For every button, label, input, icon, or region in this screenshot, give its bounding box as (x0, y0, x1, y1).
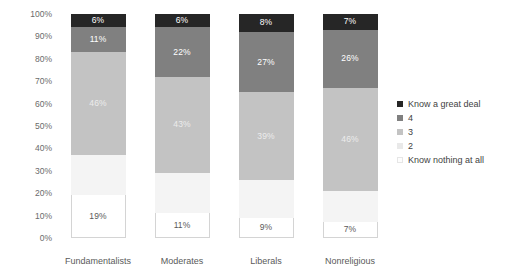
stacked-bar[interactable]: 6%11%46%19% (71, 14, 126, 238)
legend-swatch-icon (397, 129, 403, 135)
y-axis-tick-label: 30% (8, 166, 52, 175)
y-axis-tick-label: 60% (8, 99, 52, 108)
stacked-bar-chart: 0%10%20%30%40%50%60%70%80%90%100% 6%11%4… (0, 0, 506, 272)
bar-segment[interactable]: 27% (239, 32, 294, 92)
bar-segment[interactable]: 7% (323, 14, 378, 30)
legend-item[interactable]: 4 (397, 111, 505, 125)
chart-legend: Know a great deal432Know nothing at all (397, 97, 505, 167)
bar-segment[interactable]: 7% (323, 222, 378, 238)
y-axis-tick-label: 0% (8, 234, 52, 243)
legend-swatch-icon (397, 157, 403, 163)
y-axis-tick-label: 50% (8, 122, 52, 131)
bar-segment[interactable]: 6% (71, 14, 126, 27)
x-axis-category-label: Nonreligious (308, 256, 392, 267)
bar-segment-value-label: 6% (92, 16, 105, 25)
bar-segment-value-label: 43% (173, 120, 190, 129)
legend-swatch-icon (397, 115, 403, 121)
bar-segment-value-label: 11% (174, 221, 191, 230)
legend-item-label: 4 (408, 113, 413, 123)
y-axis-tick-label: 80% (8, 54, 52, 63)
bar-segment-value-label: 9% (260, 223, 273, 232)
y-axis-tick-label: 10% (8, 211, 52, 220)
bar-segment[interactable]: 46% (323, 88, 378, 191)
bar-segment-value-label: 27% (257, 58, 274, 67)
bar-segment[interactable]: 11% (155, 213, 210, 238)
plot-area: 6%11%46%19%Fundamentalists6%22%43%11%Mod… (56, 14, 392, 238)
bar-group: 7%26%46%7% (323, 14, 378, 238)
stacked-bar[interactable]: 7%26%46%7% (323, 14, 378, 238)
bar-segment[interactable] (323, 191, 378, 222)
bar-segment[interactable] (71, 155, 126, 195)
y-axis-tick-label: 100% (8, 10, 52, 19)
legend-item-label: Know a great deal (408, 99, 481, 109)
bar-segment-value-label: 22% (173, 48, 190, 57)
legend-item[interactable]: 3 (397, 125, 505, 139)
y-axis: 0%10%20%30%40%50%60%70%80%90%100% (8, 14, 52, 238)
bar-segment-value-label: 6% (176, 16, 189, 25)
bar-segment-value-label: 8% (260, 18, 273, 27)
bar-segment-value-label: 7% (344, 225, 357, 234)
bar-segment[interactable]: 43% (155, 77, 210, 173)
bar-segment-value-label: 46% (89, 99, 106, 108)
y-axis-tick-label: 90% (8, 32, 52, 41)
bar-segment[interactable]: 19% (71, 195, 126, 238)
y-axis-tick-label: 20% (8, 189, 52, 198)
bar-segment[interactable]: 22% (155, 27, 210, 76)
bar-group: 6%22%43%11% (155, 14, 210, 238)
stacked-bar[interactable]: 8%27%39%9% (239, 14, 294, 238)
x-axis-category-label: Moderates (140, 256, 224, 267)
bar-segment[interactable] (239, 180, 294, 218)
bar-segment[interactable]: 11% (71, 27, 126, 52)
y-axis-tick-label: 40% (8, 144, 52, 153)
legend-item[interactable]: Know nothing at all (397, 153, 505, 167)
bar-segment-value-label: 7% (344, 17, 357, 26)
bar-segment[interactable]: 39% (239, 92, 294, 179)
legend-item-label: Know nothing at all (408, 155, 484, 165)
bar-segment-value-label: 46% (341, 135, 358, 144)
bar-segment-value-label: 39% (257, 132, 274, 141)
bar-segment-value-label: 19% (89, 212, 106, 221)
bar-segment-value-label: 11% (90, 35, 107, 44)
legend-swatch-icon (397, 143, 403, 149)
x-axis-category-label: Fundamentalists (56, 256, 140, 267)
x-axis-category-label: Liberals (224, 256, 308, 267)
bar-segment[interactable]: 26% (323, 30, 378, 88)
legend-item[interactable]: 2 (397, 139, 505, 153)
bar-segment[interactable] (155, 173, 210, 213)
bar-segment[interactable]: 46% (71, 52, 126, 155)
bar-group: 8%27%39%9% (239, 14, 294, 238)
legend-item-label: 3 (408, 127, 413, 137)
stacked-bar[interactable]: 6%22%43%11% (155, 14, 210, 238)
bar-group: 6%11%46%19% (71, 14, 126, 238)
legend-item-label: 2 (408, 141, 413, 151)
bar-segment[interactable]: 9% (239, 218, 294, 238)
legend-item[interactable]: Know a great deal (397, 97, 505, 111)
legend-swatch-icon (397, 101, 403, 107)
bar-segment[interactable]: 8% (239, 14, 294, 32)
y-axis-tick-label: 70% (8, 77, 52, 86)
bar-segment-value-label: 26% (341, 54, 358, 63)
bar-segment[interactable]: 6% (155, 14, 210, 27)
